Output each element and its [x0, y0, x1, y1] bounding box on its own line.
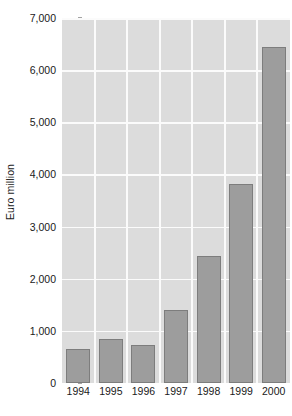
bar [66, 349, 90, 383]
y-axis-tick-label: 4,000 [30, 168, 56, 180]
y-axis-tick-label: 7,000 [30, 12, 56, 24]
bar [99, 339, 123, 383]
bar [131, 345, 155, 383]
vertical-gridline [94, 18, 96, 383]
bar [164, 310, 188, 383]
x-axis-tick-label: 1994 [67, 385, 90, 397]
y-axis-tick-label: 1,000 [30, 325, 56, 337]
x-axis-tick-label: 1999 [229, 385, 252, 397]
x-axis-tick-labels: 1994199519961997199819992000 [62, 385, 290, 405]
y-axis-tick-label: 2,000 [30, 273, 56, 285]
x-axis-tick-label: 1998 [197, 385, 220, 397]
x-axis-tick-label: 1996 [132, 385, 155, 397]
vertical-gridline [126, 18, 128, 383]
x-axis-tick-label: 2000 [262, 385, 285, 397]
plot-area [62, 18, 290, 383]
vertical-gridline [159, 18, 161, 383]
vertical-gridline [224, 18, 226, 383]
y-axis-title: Euro million [0, 0, 20, 383]
bar [229, 184, 253, 383]
vertical-gridline [191, 18, 193, 383]
bar [262, 47, 286, 383]
x-axis-tick-label: 1995 [99, 385, 122, 397]
y-axis-tick-labels: 01,0002,0003,0004,0005,0006,0007,000 [20, 0, 60, 416]
vertical-gridline [256, 18, 258, 383]
x-axis-tick-label: 1997 [164, 385, 187, 397]
bar [197, 256, 221, 383]
bar-chart: Euro million 01,0002,0003,0004,0005,0006… [0, 0, 292, 416]
y-axis-title-label: Euro million [4, 163, 16, 219]
y-axis-tick-label: 5,000 [30, 116, 56, 128]
y-axis-tick-label: 0 [50, 377, 56, 389]
y-axis-tick-label: 6,000 [30, 64, 56, 76]
y-axis-tick-label: 3,000 [30, 221, 56, 233]
